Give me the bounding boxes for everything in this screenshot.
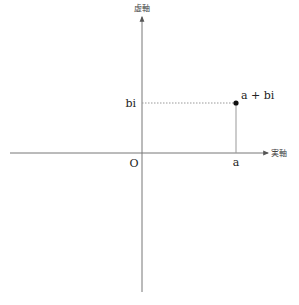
origin-label: O bbox=[129, 157, 138, 170]
point-label: a + bi bbox=[241, 89, 275, 102]
imag-part-label: bi bbox=[125, 97, 136, 110]
real-axis-label: 実軸 bbox=[271, 148, 287, 158]
real-part-label: a bbox=[233, 156, 240, 169]
complex-plane-diagram: 虚軸 実軸 O a + bi a bi bbox=[0, 0, 299, 305]
imaginary-axis-label: 虚軸 bbox=[134, 3, 150, 13]
complex-point bbox=[233, 100, 238, 105]
